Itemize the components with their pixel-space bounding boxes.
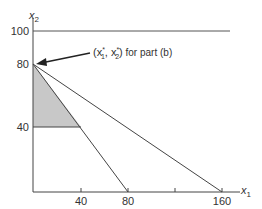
x-tick-label-40: 40 [75,195,87,207]
arrowhead-icon [36,58,47,66]
y-axis-label: x2 [28,9,40,24]
constraint-line-80-80 [33,64,128,192]
x-tick-label-160: 160 [213,195,231,207]
x-tick-label-80: 80 [122,195,134,207]
x-axis-label: x1 [240,184,252,199]
lp-feasible-region-diagram: 100 80 40 40 80 160 x2 x1 (x*1, x*2) for… [0,0,262,209]
y-tick-label-40: 40 [17,121,29,133]
y-tick-label-80: 80 [17,58,29,70]
annotation-text: (x*1, x*2) for part (b) [93,46,172,60]
constraint-line-160-80 [33,64,222,192]
annotation-arrow [41,53,90,63]
y-tick-label-100: 100 [11,25,29,37]
